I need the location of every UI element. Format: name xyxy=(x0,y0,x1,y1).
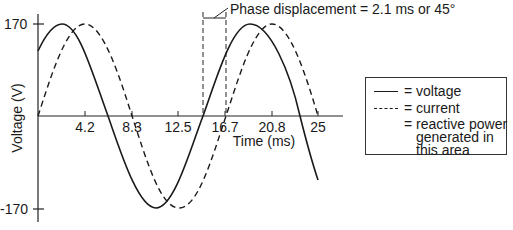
x-axis-label: Time (ms) xyxy=(233,133,295,149)
x-tick-label: 4.2 xyxy=(75,119,95,135)
phase-bracket xyxy=(203,8,228,116)
y-min-label: -170 xyxy=(0,201,28,217)
solid-line-icon xyxy=(374,91,398,92)
x-tick-label: 8.3 xyxy=(122,119,142,135)
legend: = voltage = current = reactive power gen… xyxy=(365,77,507,155)
y-axis-label: Voltage (V) xyxy=(9,83,25,152)
x-tick-label: 12.5 xyxy=(164,119,191,135)
x-tick-label: 25 xyxy=(310,119,326,135)
dashed-line-icon xyxy=(374,108,398,109)
x-ticks xyxy=(85,111,318,116)
phase-annotation: Phase displacement = 2.1 ms or 45° xyxy=(230,1,455,17)
y-max-label: 170 xyxy=(4,16,28,32)
